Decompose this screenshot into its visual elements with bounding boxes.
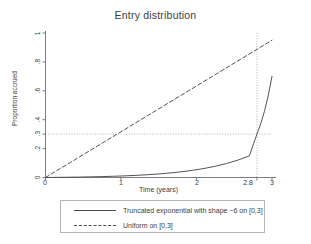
chart-figure: Entry distribution Proportion accrued Ti… [0,0,311,244]
series-line-0 [46,76,273,177]
legend-item-uniform: Uniform on [0,3] [61,219,264,232]
legend-label-truncated-exponential: Truncated exponential with shape −6 on [… [123,204,263,217]
legend-label-uniform: Uniform on [0,3] [123,219,173,232]
chart-legend: Truncated exponential with shape −6 on [… [60,200,265,233]
legend-item-truncated-exponential: Truncated exponential with shape −6 on [… [61,204,264,217]
series-line-1 [46,40,273,177]
legend-key-solid-line-icon [74,210,116,211]
legend-key-dashed-line-icon [74,225,116,226]
